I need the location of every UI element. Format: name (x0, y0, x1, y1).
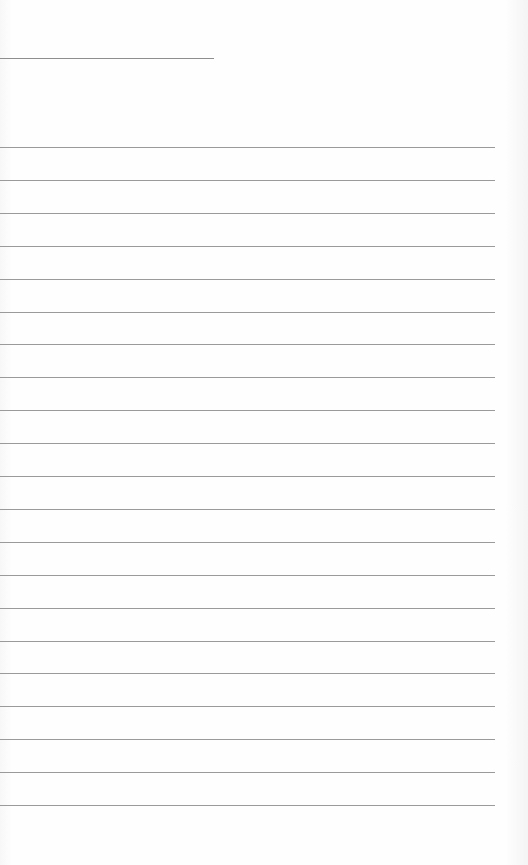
ruled-line (0, 443, 495, 444)
ruled-line (0, 147, 495, 148)
ruled-line (0, 476, 495, 477)
ruled-line (0, 673, 495, 674)
ruled-line (0, 279, 495, 280)
ruled-line (0, 410, 495, 411)
ruled-line (0, 180, 495, 181)
ruled-line (0, 772, 495, 773)
ruled-line (0, 641, 495, 642)
ruled-line (0, 608, 495, 609)
ruled-line (0, 213, 495, 214)
ruled-line (0, 509, 495, 510)
lined-paper-page (0, 0, 528, 865)
ruled-line (0, 805, 495, 806)
ruled-line (0, 575, 495, 576)
ruled-line (0, 312, 495, 313)
ruled-line (0, 739, 495, 740)
ruled-line (0, 377, 495, 378)
title-underline (0, 58, 214, 59)
ruled-line (0, 542, 495, 543)
ruled-line (0, 246, 495, 247)
ruled-line (0, 706, 495, 707)
ruled-line (0, 344, 495, 345)
